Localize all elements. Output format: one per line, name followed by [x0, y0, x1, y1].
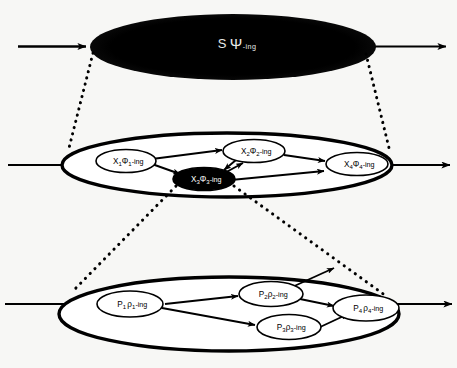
node-x2-label: X2Φ2-ing — [216, 146, 292, 156]
node-p1-label: P1ρ1-ing — [92, 299, 168, 309]
zoom-left-2-3-dotted — [72, 186, 176, 292]
level-2-group[interactable]: X1Φ1-ing X2Φ2-ing X3Φ3-ing X4Φ4-ing — [8, 133, 450, 197]
node-x3-label: X3Φ3-ing — [166, 175, 242, 185]
zoom-right-1-2-dotted — [366, 54, 390, 152]
diagram-canvas: SΨ-ing — [0, 0, 457, 368]
node-x4-label: X4Φ4-ing — [319, 159, 395, 169]
level-1-label: SΨ-ing — [182, 35, 285, 53]
node-p2-label: P2ρ2-ing — [234, 289, 308, 299]
node-p3-label: P3ρ3-ing — [252, 322, 326, 332]
zoom-left-1-2-dotted — [68, 53, 93, 152]
diagram-svg: SΨ-ing — [0, 0, 457, 368]
node-p4-label: P4ρ4-ing — [328, 303, 404, 313]
node-x1-label: X1Φ1-ing — [88, 156, 164, 166]
level-1-group[interactable]: SΨ-ing — [18, 14, 446, 80]
level-3-group[interactable]: P1ρ1-ing P2ρ2-ing P3ρ3-ing P4ρ4-ing — [5, 268, 452, 351]
